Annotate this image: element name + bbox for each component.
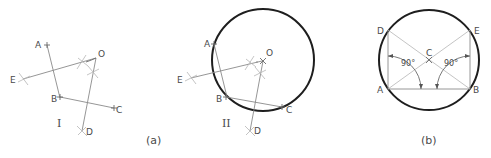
caption-a: (a) (146, 134, 161, 147)
point-a-mark (44, 42, 50, 48)
label-b: B (473, 85, 479, 95)
label-d: D (86, 127, 93, 137)
point-b-mark (57, 94, 63, 100)
dot-mark (256, 61, 257, 62)
label-b: B (51, 94, 57, 104)
angle-label-left: 90° (401, 59, 415, 68)
label-e: E (177, 75, 183, 85)
label-c: C (286, 105, 292, 115)
panel-numeral-1: I (57, 117, 61, 130)
circumscribed-circle (212, 9, 314, 111)
panel-numeral-2: II (222, 117, 231, 130)
label-o: O (266, 48, 273, 58)
arc-cross-do (87, 66, 99, 78)
bisector-do (250, 61, 263, 131)
arc-cross-e (185, 72, 197, 84)
label-c: C (426, 48, 432, 58)
arrow-left-top (388, 54, 393, 58)
label-d: D (254, 126, 261, 136)
label-a: A (204, 39, 211, 49)
label-b: B (216, 94, 222, 104)
figure-b: D E C A B 90° 90° (377, 10, 480, 110)
label-d: D (377, 26, 384, 36)
label-a: A (377, 85, 384, 95)
bisector-eo (23, 58, 96, 79)
arc-cross-e (18, 73, 30, 85)
figure-a-panel-2: A O E B C D II (177, 9, 314, 136)
label-o: O (98, 49, 105, 59)
bisector-do (82, 58, 96, 131)
point-b-mark (223, 94, 229, 100)
caption-b: (b) (421, 134, 437, 147)
angle-label-right: 90° (444, 59, 458, 68)
arrow-left-bottom (419, 84, 423, 89)
label-c: C (116, 105, 122, 115)
label-e: E (474, 26, 480, 36)
arrow-right-bottom (435, 84, 439, 89)
label-e: E (10, 75, 16, 85)
arrow-right-top (465, 54, 470, 58)
geometry-diagram: A O E B C D I (a) A O E B C D II (0, 0, 491, 158)
label-a: A (35, 40, 42, 50)
figure-a-panel-1: A O E B C D I (10, 40, 122, 137)
